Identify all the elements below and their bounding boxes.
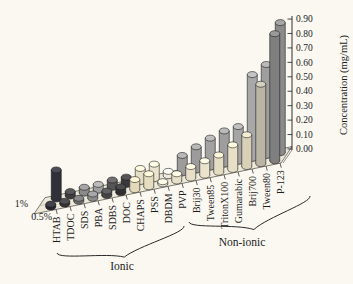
group-label-non-ionic: Non-ionic <box>219 236 266 248</box>
x-tick <box>140 192 141 197</box>
bar-body-05pct-Tween80 <box>256 84 266 163</box>
bar-body-1pct-HTAB <box>51 170 61 199</box>
bar-body-05pct-Gumarabic <box>228 145 238 170</box>
category-label-PSS: PSS <box>149 196 160 213</box>
bar-top-05pct-SDBS <box>102 188 112 194</box>
y-tick-label: 0.00 <box>296 144 313 154</box>
x-tick <box>126 195 127 200</box>
y-tick-label: 0.40 <box>296 86 313 96</box>
bar-top-1pct-PSS <box>149 161 159 167</box>
bar-top-1pct-Brij30 <box>191 144 201 150</box>
category-label-DBDM: DBDM <box>163 193 174 223</box>
y-tick-label: 0.70 <box>296 43 313 53</box>
x-tick <box>280 163 281 168</box>
surfactant-concentration-3d-bar-chart: 0.000.100.200.300.400.500.600.700.800.90… <box>0 0 353 284</box>
category-label-CHAPS: CHAPS <box>135 199 146 231</box>
x-tick <box>98 201 99 206</box>
bar-top-1pct-Gumarabic <box>233 124 243 130</box>
bar-top-05pct-Brij700 <box>242 132 252 138</box>
bar-body-05pct-Brij700 <box>242 135 252 167</box>
y-axis-title: Concentration (mg/mL) <box>338 34 350 135</box>
group-label-ionic: Ionic <box>110 260 134 272</box>
bar-top-1pct-SDBS <box>107 177 117 183</box>
y-tick-label: 0.30 <box>296 101 313 111</box>
bar-top-05pct-Tween80 <box>256 81 266 87</box>
category-label-SDBS: SDBS <box>107 205 118 230</box>
bar-top-1pct-SDS <box>79 184 89 190</box>
category-label-TDOC: TDOC <box>65 213 76 241</box>
y-tick-label: 0.60 <box>296 58 313 68</box>
x-tick <box>224 175 225 180</box>
category-label-PBA: PBA <box>93 207 104 227</box>
category-label-HTAB: HTAB <box>51 216 62 243</box>
y-tick-label: 0.20 <box>296 115 313 125</box>
y-tick-label: 0.80 <box>296 29 313 39</box>
bar-top-05pct-PBA <box>88 191 98 197</box>
row-label-1pct: 1% <box>15 198 28 209</box>
bar-top-05pct-TritonX100 <box>214 152 224 158</box>
bar-top-1pct-TDOC <box>65 189 75 195</box>
scanned-figure-page: 0.000.100.200.300.400.500.600.700.800.90… <box>0 0 353 284</box>
x-tick <box>210 178 211 183</box>
category-label-DOC: DOC <box>121 202 132 223</box>
category-label-Brij700: Brij700 <box>247 176 258 207</box>
x-tick <box>266 166 267 171</box>
bar-top-05pct-Gumarabic <box>228 142 238 148</box>
x-tick <box>84 204 85 209</box>
bar-top-1pct-PBA <box>93 181 103 187</box>
bar-top-05pct-Brij30 <box>186 164 196 170</box>
bar-top-1pct-P-123 <box>275 20 285 26</box>
bar-top-1pct-PVP <box>177 152 187 158</box>
bar-top-1pct-TritonX100 <box>219 128 229 134</box>
bar-top-1pct-CHAPS <box>135 165 145 171</box>
category-label-P-123: P-123 <box>275 170 286 194</box>
category-label-Brij30: Brij30 <box>191 188 202 214</box>
bar-top-05pct-P-123 <box>270 31 280 37</box>
y-tick-label: 0.10 <box>296 130 313 140</box>
x-tick <box>112 198 113 203</box>
category-label-Tween85: Tween85 <box>205 185 216 222</box>
bar-top-05pct-Tween85 <box>200 158 210 164</box>
bar-top-05pct-PVP <box>172 171 182 177</box>
bar-top-1pct-Tween85 <box>205 135 215 141</box>
x-tick <box>168 186 169 191</box>
category-label-TritonX100: TritonX100 <box>219 182 230 229</box>
bar-top-1pct-Brij700 <box>247 72 257 78</box>
bar-top-05pct-PSS <box>144 171 154 177</box>
bar-top-05pct-DBDM <box>158 179 168 185</box>
x-tick <box>70 207 71 212</box>
bar-top-05pct-HTAB <box>46 201 56 207</box>
bar-body-05pct-P-123 <box>270 34 280 161</box>
category-label-Tween80: Tween80 <box>261 173 272 210</box>
x-tick <box>56 209 57 214</box>
bar-top-05pct-CHAPS <box>130 177 140 183</box>
x-tick <box>196 181 197 186</box>
y-tick-label: 0.90 <box>296 14 313 24</box>
bar-top-05pct-TDOC <box>60 198 70 204</box>
category-label-PVP: PVP <box>177 190 188 209</box>
bar-top-05pct-DOC <box>116 184 126 190</box>
x-tick <box>252 169 253 174</box>
bar-top-05pct-SDS <box>74 195 84 201</box>
category-label-SDS: SDS <box>79 211 90 229</box>
category-label-Gumarabic: Gumarabic <box>233 178 244 223</box>
bar-top-1pct-HTAB <box>51 167 61 173</box>
x-tick <box>182 183 183 188</box>
row-label-05pct: 0.5% <box>31 211 52 222</box>
group-brace-ionic <box>57 226 184 257</box>
x-tick <box>154 189 155 194</box>
x-tick <box>238 172 239 177</box>
y-tick-label: 0.50 <box>296 72 313 82</box>
